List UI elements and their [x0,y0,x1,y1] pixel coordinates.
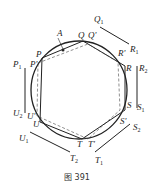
label-a: A [56,28,63,38]
label-p: P [35,49,42,59]
label-s: S [127,100,132,110]
label-u2: U2 [13,108,23,119]
label-r1: R1 [129,44,139,55]
label-p-prime: P' [29,59,38,69]
label-q-prime: Q' [88,30,97,40]
segment-q1r1 [100,27,129,44]
segment-s2t1 [95,124,130,152]
label-q: Q [78,30,85,40]
segment-t2u1 [30,132,70,152]
label-q1: Q1 [94,14,104,25]
label-p1: P1 [12,59,22,70]
label-t-prime: T' [88,139,96,149]
geometry-figure: A Q Q' Q1 R1 R' R R2 P P' P1 S S1 S' S2 … [0,0,161,188]
label-t1: T1 [95,155,103,166]
label-r-prime: R' [117,48,126,58]
label-u-prime: U' [27,111,36,121]
label-t2: T2 [70,153,78,164]
hexagon-solid [40,41,125,139]
label-r: R [125,63,132,73]
label-u1: U1 [19,133,29,144]
label-r2: R2 [138,63,148,74]
hexagon-dashed [37,44,120,139]
figure-caption: 图 391 [64,173,90,182]
label-t: T [77,139,83,149]
label-s2: S2 [133,122,141,133]
label-s1: S1 [137,102,145,113]
label-s-prime: S' [120,116,128,126]
